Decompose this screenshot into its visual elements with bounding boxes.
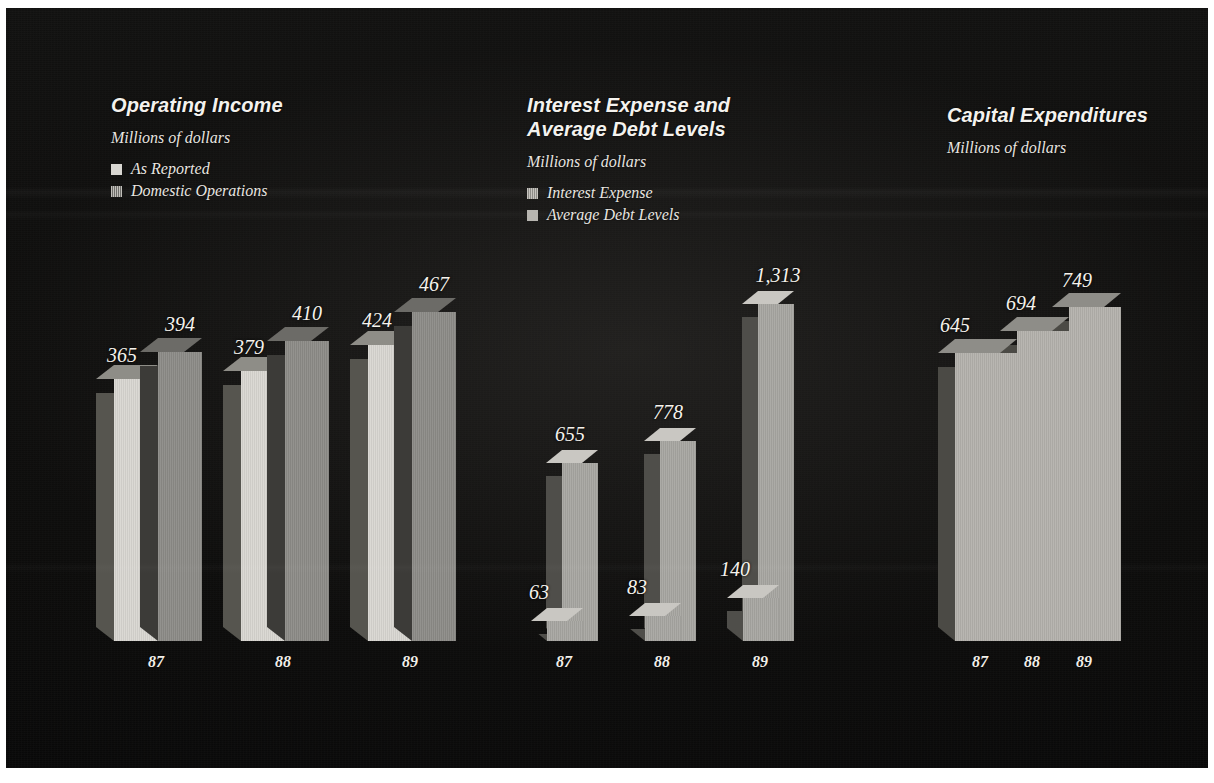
legend-swatch-icon bbox=[111, 186, 122, 197]
bar-front-face bbox=[1017, 331, 1069, 641]
value-label-as-reported-87: 365 bbox=[94, 344, 150, 367]
bar-front-face bbox=[547, 621, 583, 641]
bar-front-face bbox=[955, 353, 1017, 641]
bar-capital-expenditures-89 bbox=[1069, 307, 1121, 641]
legend-label: As Reported bbox=[131, 160, 210, 178]
bar-side-face bbox=[938, 367, 955, 641]
bar-front-face bbox=[1069, 307, 1121, 641]
value-label-domestic-operations-89: 467 bbox=[403, 273, 465, 296]
value-label-domestic-operations-87: 394 bbox=[149, 313, 211, 336]
axis-label-89: 89 bbox=[1060, 653, 1108, 671]
legend-label: Domestic Operations bbox=[131, 182, 267, 200]
capital-expenditures-header: Capital Expenditures Millions of dollars bbox=[947, 103, 1148, 158]
legend-item-domestic-operations: Domestic Operations bbox=[111, 180, 283, 202]
axis-label-88: 88 bbox=[1008, 653, 1056, 671]
interest-expense-subtitle: Millions of dollars bbox=[527, 152, 730, 172]
axis-label-87: 87 bbox=[956, 653, 1004, 671]
axis-label-88: 88 bbox=[255, 653, 311, 671]
legend-item-as-reported: As Reported bbox=[111, 158, 283, 180]
value-label-capital-expenditures-89: 749 bbox=[1046, 269, 1108, 292]
page-title: Capital Expenditures bbox=[947, 103, 1148, 127]
value-label-capital-expenditures-88: 694 bbox=[990, 292, 1052, 315]
legend-label: Average Debt Levels bbox=[547, 206, 679, 224]
axis-label-87: 87 bbox=[128, 653, 184, 671]
legend-swatch-icon bbox=[527, 210, 538, 221]
legend-swatch-icon bbox=[111, 164, 122, 175]
bar-front-face bbox=[743, 598, 779, 641]
operating-income-header: Operating Income Millions of dollars As … bbox=[111, 93, 283, 202]
legend-item-average-debt-levels: Average Debt Levels bbox=[527, 204, 730, 226]
bar-top-face bbox=[1052, 293, 1121, 307]
interest-expense-legend: Interest Expense Average Debt Levels bbox=[527, 182, 730, 226]
bar-interest-expense-87 bbox=[547, 621, 583, 641]
page-title: Interest Expense and Average Debt Levels bbox=[527, 93, 730, 141]
value-label-average-debt-levels-88: 778 bbox=[637, 401, 699, 424]
value-label-domestic-operations-88: 410 bbox=[276, 302, 338, 325]
value-label-average-debt-levels-87: 655 bbox=[539, 423, 601, 446]
value-label-interest-expense-87: 63 bbox=[517, 581, 561, 604]
capital-expenditures-subtitle: Millions of dollars bbox=[947, 138, 1148, 158]
operating-income-subtitle: Millions of dollars bbox=[111, 128, 283, 148]
value-label-interest-expense-89: 140 bbox=[709, 558, 761, 581]
value-label-as-reported-89: 424 bbox=[347, 309, 407, 332]
value-label-interest-expense-88: 83 bbox=[615, 576, 659, 599]
interest-expense-header: Interest Expense and Average Debt Levels… bbox=[527, 93, 730, 226]
axis-label-87: 87 bbox=[536, 653, 592, 671]
legend-swatch-icon bbox=[527, 188, 538, 199]
legend-label: Interest Expense bbox=[547, 184, 653, 202]
dark-chart-board: Operating Income Millions of dollars As … bbox=[6, 8, 1208, 768]
page-title: Operating Income bbox=[111, 93, 283, 117]
value-label-as-reported-88: 379 bbox=[220, 336, 278, 359]
operating-income-legend: As Reported Domestic Operations bbox=[111, 158, 283, 202]
legend-item-interest-expense: Interest Expense bbox=[527, 182, 730, 204]
value-label-average-debt-levels-89: 1,313 bbox=[737, 264, 819, 287]
axis-label-89: 89 bbox=[732, 653, 788, 671]
bar-interest-expense-88 bbox=[645, 616, 681, 641]
bar-front-face bbox=[645, 616, 681, 641]
chart-page: Operating Income Millions of dollars As … bbox=[0, 0, 1214, 783]
bar-interest-expense-89 bbox=[743, 598, 779, 641]
bar-capital-expenditures-88 bbox=[1017, 331, 1069, 641]
axis-label-88: 88 bbox=[634, 653, 690, 671]
axis-label-89: 89 bbox=[382, 653, 438, 671]
bar-capital-expenditures-87 bbox=[955, 353, 1017, 641]
value-label-capital-expenditures-87: 645 bbox=[924, 314, 986, 337]
